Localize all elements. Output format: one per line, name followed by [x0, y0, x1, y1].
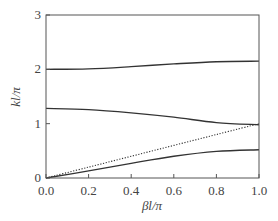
x-tick-label: 1.0 — [251, 183, 267, 198]
x-tick-label: 0.2 — [80, 183, 96, 198]
plot-area — [46, 61, 259, 178]
plot-frame — [46, 15, 259, 178]
y-axis-label: kl/π — [8, 87, 23, 107]
series-line — [46, 150, 259, 178]
axes: 0.00.20.40.60.81.00123 — [35, 7, 268, 198]
series-line — [46, 61, 259, 69]
y-tick-label: 2 — [35, 61, 42, 76]
x-tick-label: 0.6 — [166, 183, 183, 198]
x-tick-label: 0.8 — [208, 183, 224, 198]
y-tick-label: 3 — [35, 7, 42, 22]
series-line — [46, 108, 259, 124]
chart: 0.00.20.40.60.81.00123 βl/π kl/π — [0, 0, 278, 221]
x-axis-label: βl/π — [141, 198, 163, 213]
x-tick-label: 0.4 — [123, 183, 140, 198]
y-tick-label: 1 — [35, 116, 42, 131]
y-tick-label: 0 — [35, 170, 42, 185]
x-tick-label: 0.0 — [38, 183, 54, 198]
